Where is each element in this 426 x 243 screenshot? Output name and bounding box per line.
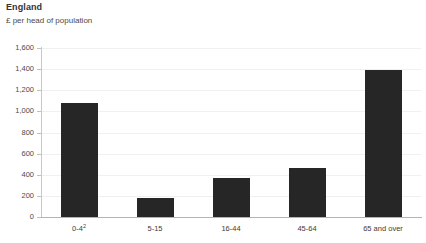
- x-axis-tick-label: 0-42: [41, 224, 117, 233]
- y-axis-tick-label: 600: [2, 150, 34, 158]
- y-axis-tick-label: 1,000: [2, 107, 34, 115]
- y-axis-tick-label: 200: [2, 192, 34, 200]
- chart-subtitle: £ per head of population: [6, 16, 92, 26]
- y-axis-tick-label: 0: [2, 213, 34, 221]
- y-tick-label-wrap: 1,200: [0, 86, 34, 94]
- gridline: [41, 48, 421, 49]
- y-axis-tick-label: 1,600: [2, 44, 34, 52]
- gridline: [41, 90, 421, 91]
- x-axis-tick-label: 16-44: [193, 224, 269, 233]
- gridline: [41, 154, 421, 155]
- y-axis-tick-label: 800: [2, 129, 34, 137]
- gridline: [41, 69, 421, 70]
- x-axis-tick-label: 65 and over: [345, 224, 421, 233]
- bar: [289, 168, 326, 217]
- chart-title: England: [6, 2, 42, 13]
- y-tick-label-wrap: 200: [0, 192, 34, 200]
- x-axis-tick-label: 45-64: [269, 224, 345, 233]
- bar: [137, 198, 174, 217]
- gridline: [41, 175, 421, 176]
- footnote-marker: 2: [83, 223, 86, 229]
- chart-container: England £ per head of population 0200400…: [0, 0, 426, 243]
- y-tick-label-wrap: 1,000: [0, 107, 34, 115]
- y-tick-label-wrap: 0: [0, 213, 34, 221]
- y-axis-line: [41, 47, 42, 218]
- x-axis-line: [41, 217, 422, 218]
- bar: [213, 178, 250, 217]
- bar: [61, 103, 98, 217]
- bar: [365, 70, 402, 217]
- gridline: [41, 111, 421, 112]
- x-axis-tick-label: 5-15: [117, 224, 193, 233]
- y-tick-label-wrap: 800: [0, 129, 34, 137]
- y-tick-label-wrap: 1,400: [0, 65, 34, 73]
- y-tick-label-wrap: 1,600: [0, 44, 34, 52]
- gridline: [41, 133, 421, 134]
- y-axis-tick-label: 400: [2, 171, 34, 179]
- y-axis-tick-label: 1,200: [2, 86, 34, 94]
- y-tick-label-wrap: 400: [0, 171, 34, 179]
- y-tick-label-wrap: 600: [0, 150, 34, 158]
- y-axis-tick-label: 1,400: [2, 65, 34, 73]
